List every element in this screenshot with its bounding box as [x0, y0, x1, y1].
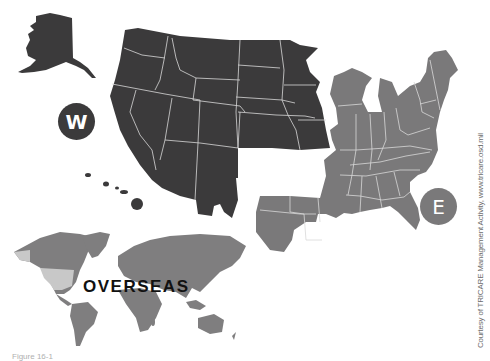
us-on-world-highlight: [40, 268, 74, 290]
west-region-badge: W: [58, 103, 95, 140]
overseas-label: OVERSEAS: [83, 277, 189, 297]
east-region-badge: E: [420, 188, 457, 225]
hawaii-island: [120, 190, 128, 194]
hawaii-island: [103, 182, 109, 187]
hawaii-island: [131, 198, 143, 210]
east-badge-letter: E: [432, 195, 445, 219]
figure-caption-partial: Figure 16-1: [12, 352, 53, 361]
hawaii-island: [115, 187, 119, 190]
west-badge-letter: W: [65, 110, 87, 134]
west-region: [110, 28, 330, 218]
alaska-shape: [18, 13, 96, 78]
hawaii-island: [85, 173, 91, 177]
image-credit: Courtesy of TRICARE Management Activity,…: [476, 133, 485, 348]
